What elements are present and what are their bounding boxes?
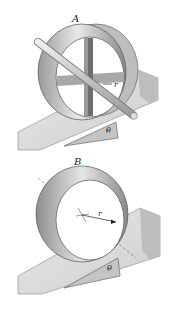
figure-label-a: A xyxy=(71,13,79,24)
angle-label-b: θ xyxy=(107,264,112,273)
figure-b: r B θ xyxy=(0,150,173,309)
hoop-b xyxy=(36,166,128,262)
figure-a: r A θ xyxy=(0,0,173,155)
figure-a-drawing: r A θ xyxy=(0,0,173,155)
figure-label-b: B xyxy=(73,156,81,167)
figure-b-drawing: r B θ xyxy=(0,150,173,309)
angle-label-a: θ xyxy=(106,126,111,135)
